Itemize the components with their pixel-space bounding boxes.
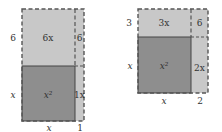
diagram-canvas: 6x x² 6 1x 6 x x 1 3x x² 6 2x 3 x x 2 [0,0,222,132]
right-label-x-squared: x² [160,61,169,71]
right-bottom-label-2: 2 [197,96,203,106]
left-label-6x: 6x [43,33,54,43]
left-label-strip-6: 6 [77,33,83,43]
right-side-label-x: x [127,61,132,71]
left-side-label-6: 6 [10,33,16,43]
right-label-strip-2x: 2x [194,63,205,73]
left-label-x-squared: x² [44,90,53,100]
left-figure: 6x x² 6 1x 6 x x 1 [10,9,85,132]
left-bottom-label-1: 1 [77,123,83,132]
right-label-corner-6: 6 [197,18,203,28]
right-figure: 3x x² 6 2x 3 x x 2 [126,9,208,106]
left-label-strip-1x: 1x [74,90,85,100]
right-label-3x: 3x [159,18,170,28]
left-side-label-x: x [10,90,15,100]
right-side-label-3: 3 [126,18,132,28]
left-bottom-label-x: x [46,123,51,132]
right-bottom-label-x: x [161,96,166,106]
